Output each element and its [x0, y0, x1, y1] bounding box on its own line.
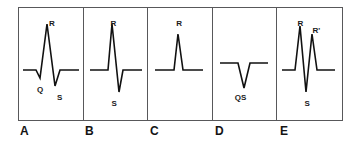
panel-b: R S [84, 8, 149, 120]
panel-letter-label: A [20, 124, 29, 138]
panel-a: R Q S [19, 8, 84, 120]
label-r: R [176, 20, 182, 28]
panel-letter-b: B [83, 124, 148, 140]
panel-e: R R' S [277, 8, 342, 120]
label-r: R [49, 20, 55, 28]
panel-letter-label: E [280, 124, 288, 138]
label-r: R [111, 20, 117, 28]
panel-letter-e: E [278, 124, 343, 140]
panel-letter-d: D [213, 124, 278, 140]
ecg-qrs-morphology-figure: R Q S R S R QS R [0, 0, 358, 143]
panel-c: R [148, 8, 213, 120]
label-s: S [304, 100, 309, 108]
label-s: S [57, 94, 62, 102]
panel-d: QS [213, 8, 278, 120]
label-qs: QS [235, 94, 247, 102]
label-q: Q [37, 86, 43, 94]
panel-row: R Q S R S R QS R [18, 7, 343, 121]
label-s: S [112, 100, 117, 108]
waveform-d [213, 8, 278, 120]
panel-letter-row: A B C D E [18, 124, 343, 140]
panel-letter-label: B [85, 124, 94, 138]
panel-letter-label: C [150, 124, 159, 138]
panel-letter-a: A [18, 124, 83, 140]
label-r: R [297, 20, 303, 28]
panel-letter-label: D [215, 124, 224, 138]
panel-letter-c: C [148, 124, 213, 140]
label-r-prime: R' [312, 27, 320, 35]
